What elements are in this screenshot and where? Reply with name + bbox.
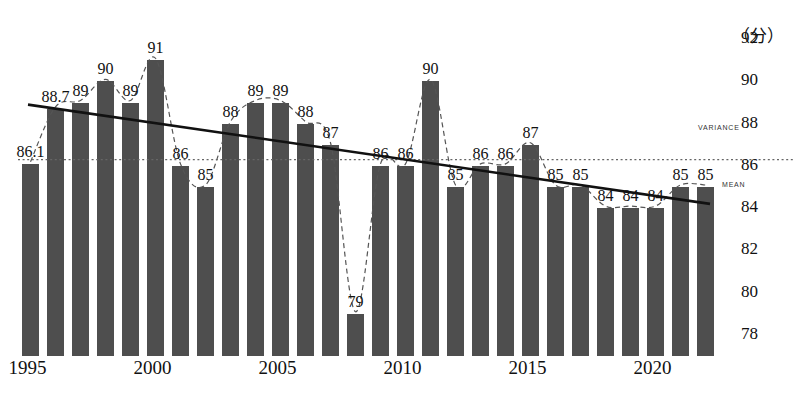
y-tick-88: 88 — [741, 113, 758, 133]
y-tick-86: 86 — [741, 155, 758, 175]
y-tick-92: 92 — [741, 28, 758, 48]
bar-label-1995: 86.1 — [11, 143, 51, 161]
bar-2014 — [497, 166, 515, 356]
bar-1998 — [97, 81, 115, 356]
bar-label-2017: 85 — [570, 166, 592, 184]
bar-label-2014: 86 — [495, 145, 517, 163]
bar-2005 — [272, 103, 290, 357]
bar-label-2012: 85 — [445, 166, 467, 184]
bar-label-1997: 89 — [70, 82, 92, 100]
x-tick-1995: 1995 — [9, 357, 47, 379]
y-tick-82: 82 — [741, 239, 758, 259]
y-axis: （分） 9290888684828078 — [727, 18, 793, 374]
chart-page: ▫ ▫ ▫ ▫ ▫ ▫ ▫ ▫ ▫ 86.188.789908991868588… — [0, 0, 793, 399]
bar-2000 — [147, 60, 165, 356]
bar-label-2021: 85 — [670, 166, 692, 184]
bar-2001 — [172, 166, 190, 356]
bar-label-2001: 86 — [170, 145, 192, 163]
x-tick-2005: 2005 — [259, 357, 297, 379]
bar-1999 — [122, 103, 140, 357]
mean-legend-label: MEAN — [722, 181, 745, 188]
bar-label-2004: 89 — [245, 82, 267, 100]
bar-2022 — [697, 187, 715, 356]
bar-2019 — [622, 208, 640, 356]
bar-label-2003: 88 — [220, 103, 242, 121]
y-tick-90: 90 — [741, 70, 758, 90]
bar-2009 — [372, 166, 390, 356]
bar-2017 — [572, 187, 590, 356]
bar-2018 — [597, 208, 615, 356]
bar-2012 — [447, 187, 465, 356]
bar-2006 — [297, 124, 315, 356]
bar-1995 — [22, 164, 40, 356]
bar-2020 — [647, 208, 665, 356]
bar-1997 — [72, 103, 90, 357]
bar-label-2002: 85 — [195, 166, 217, 184]
x-tick-2010: 2010 — [384, 357, 422, 379]
bar-2021 — [672, 187, 690, 356]
bar-label-2009: 86 — [370, 145, 392, 163]
plot-area: 86.188.789908991868588898988877986869085… — [18, 18, 718, 356]
bar-2015 — [522, 145, 540, 356]
bar-label-2022: 85 — [695, 166, 717, 184]
bar-label-2016: 85 — [545, 166, 567, 184]
bar-label-2000: 91 — [145, 39, 167, 57]
x-tick-2020: 2020 — [634, 357, 672, 379]
bar-label-2013: 86 — [470, 145, 492, 163]
bar-label-2011: 90 — [420, 60, 442, 78]
bar-2004 — [247, 103, 265, 357]
cropped-header-label: ▫ ▫ ▫ ▫ ▫ ▫ ▫ ▫ ▫ — [0, 0, 79, 6]
y-tick-80: 80 — [741, 282, 758, 302]
x-tick-2015: 2015 — [509, 357, 547, 379]
bar-label-1999: 89 — [120, 82, 142, 100]
bar-2011 — [422, 81, 440, 356]
bar-label-2019: 84 — [620, 187, 642, 205]
bar-label-2005: 89 — [270, 82, 292, 100]
bar-2002 — [197, 187, 215, 356]
bar-label-1998: 90 — [95, 60, 117, 78]
bar-label-2006: 88 — [295, 103, 317, 121]
bar-label-2008: 79 — [345, 293, 367, 311]
bar-label-2020: 84 — [645, 187, 667, 205]
bar-label-2010: 86 — [395, 145, 417, 163]
bar-2016 — [547, 187, 565, 356]
bar-label-2015: 87 — [520, 124, 542, 142]
x-tick-2000: 2000 — [134, 357, 172, 379]
bar-label-2018: 84 — [595, 187, 617, 205]
bar-2008 — [347, 314, 365, 356]
y-tick-78: 78 — [741, 324, 758, 344]
bar-2013 — [472, 166, 490, 356]
bar-label-2007: 87 — [320, 124, 342, 142]
cropped-header-text: ▫ ▫ ▫ ▫ ▫ ▫ ▫ ▫ ▫ — [0, 0, 260, 6]
variance-legend-label: VARIANCE — [698, 124, 740, 131]
y-tick-84: 84 — [741, 197, 758, 217]
bar-2003 — [222, 124, 240, 356]
bar-2007 — [322, 145, 340, 356]
x-axis: 199520002005201020152020 — [18, 357, 718, 387]
bar-2010 — [397, 166, 415, 356]
